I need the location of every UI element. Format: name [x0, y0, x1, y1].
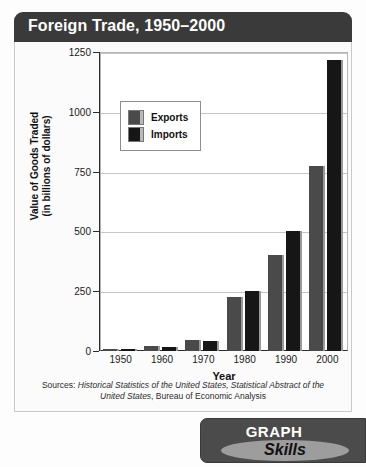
chart-legend: Exports Imports — [120, 101, 201, 151]
y-axis-tick-label: 0 — [85, 346, 91, 357]
bar-series-container — [100, 52, 348, 351]
bar-exports-1980 — [227, 297, 243, 351]
y-axis-labels: 025050075010001250 — [14, 52, 99, 351]
page-title: Foreign Trade, 1950–2000 — [28, 17, 225, 35]
x-axis-tick-label: 1950 — [110, 354, 132, 365]
x-axis-tick-label: 2000 — [316, 354, 338, 365]
y-axis-tick-mark — [93, 351, 99, 352]
page-root: Foreign Trade, 1950–2000 Value of Goods … — [0, 0, 366, 467]
legend-swatch-imports-icon — [128, 127, 144, 142]
graph-skills-badge: GRAPH Skills — [200, 418, 366, 463]
sources-note: Sources: Historical Statistics of the Un… — [14, 380, 352, 402]
x-axis-labels: 195019601970198019902000 — [100, 354, 348, 370]
bar-exports-1990 — [268, 255, 284, 351]
legend-label-imports: Imports — [151, 129, 188, 140]
badge-bottom-label: Skills — [221, 441, 349, 459]
legend-swatch-exports-icon — [128, 110, 144, 125]
legend-item-imports: Imports — [128, 127, 188, 142]
y-axis-tick-label: 750 — [74, 166, 91, 177]
x-axis-tick-label: 1990 — [275, 354, 297, 365]
bar-imports-1980 — [245, 291, 261, 351]
legend-item-exports: Exports — [128, 110, 188, 125]
bar-imports-1960 — [162, 347, 178, 351]
x-axis-tick-label: 1980 — [234, 354, 256, 365]
chart-area: Value of Goods Traded (in billions of do… — [14, 42, 352, 377]
x-axis-tick-label: 1960 — [151, 354, 173, 365]
sources-prefix: Sources: — [42, 380, 78, 390]
bar-imports-1990 — [286, 231, 302, 351]
bar-imports-2000 — [327, 60, 343, 351]
bar-imports-1950 — [121, 349, 137, 351]
card-title-bar: Foreign Trade, 1950–2000 — [14, 12, 352, 42]
bar-exports-2000 — [309, 166, 325, 351]
y-axis-tick-label: 500 — [74, 226, 91, 237]
y-axis-tick-label: 250 — [74, 286, 91, 297]
y-axis-tick-label: 1250 — [69, 47, 91, 58]
x-axis-tick-label: 1970 — [192, 354, 214, 365]
bar-exports-1960 — [144, 346, 160, 351]
sources-suffix: , Bureau of Economic Analysis — [151, 391, 266, 401]
bar-imports-1970 — [203, 341, 219, 351]
badge-top-label: GRAPH — [201, 423, 347, 440]
bar-exports-1970 — [185, 340, 201, 351]
legend-label-exports: Exports — [151, 112, 188, 123]
bar-exports-1950 — [103, 349, 119, 351]
y-axis-tick-label: 1000 — [69, 106, 91, 117]
